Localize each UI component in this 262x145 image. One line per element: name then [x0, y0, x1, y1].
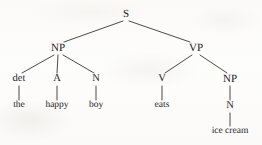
tree-node-icecream: ice cream: [212, 127, 249, 137]
tree-node-a: A: [53, 74, 61, 85]
tree-node-happy: happy: [45, 101, 68, 111]
tree-node-np1: NP: [51, 43, 65, 54]
tree-node-det: det: [13, 74, 26, 85]
tree-node-n2: N: [226, 101, 234, 112]
tree-edge-vp-v: [165, 55, 192, 73]
tree-edge-np1-a: [57, 55, 58, 73]
tree-node-boy: boy: [89, 101, 103, 111]
syntax-tree-diagram: SNPVPdetANVNPthehappyboyeatsNice cream: [0, 0, 262, 145]
tree-node-vp: VP: [189, 43, 203, 54]
tree-edge-s-np1: [64, 21, 123, 42]
tree-edge-np1-n1: [63, 55, 94, 73]
tree-node-eats: eats: [155, 101, 170, 111]
tree-node-the: the: [13, 101, 25, 111]
tree-node-n1: N: [92, 74, 100, 85]
tree-node-s: S: [123, 9, 129, 20]
tree-edge-np1-det: [22, 55, 54, 73]
tree-node-np2: NP: [223, 74, 237, 85]
tree-node-v: V: [158, 74, 166, 85]
tree-edge-vp-np2: [200, 55, 227, 73]
tree-edge-s-vp: [129, 21, 190, 42]
